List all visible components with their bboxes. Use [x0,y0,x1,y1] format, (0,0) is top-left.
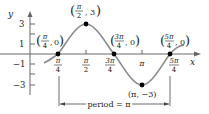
svg-text:2: 2 [77,12,81,20]
x-tick-3pi-over-4: 3π 4 [105,57,115,74]
y-tick-3: 3 [19,19,24,29]
y-axis-label: y [7,9,14,19]
svg-text:(: ( [36,33,41,48]
svg-text:π: π [76,3,82,11]
x-tick-pi: π [139,59,146,68]
svg-text:,: , [175,38,178,47]
sine-graph: y 3 1 −1 −3 x ( π 4 , 0 ) ( π 2 , 3 ) ( … [0,0,209,114]
x-tick-pi-over-4: π 4 [54,57,62,74]
label-point-min: (π, −3) [128,90,156,99]
x-tick-5pi-over-4: 5π 4 [169,57,179,74]
period-arrow-left-icon [60,102,65,106]
svg-text:,: , [85,8,88,17]
point-pi-over-4 [56,52,61,57]
svg-text:5π: 5π [164,33,173,41]
svg-text:(: ( [70,3,75,18]
svg-text:): ) [59,33,64,48]
svg-text:4: 4 [167,42,172,50]
svg-text:): ) [96,3,101,18]
svg-text:4: 4 [172,66,177,74]
svg-text:4: 4 [108,66,113,74]
svg-text:3π: 3π [114,33,123,41]
x-axis-arrow-icon [194,52,201,57]
period-arrow-right-icon [164,102,169,106]
label-point-5pi-over-4: ( 5π 4 , 0 ) [160,33,190,50]
x-axis-label: x [190,57,195,67]
label-point-pi-over-4: ( π 4 , 0 ) [36,33,64,50]
point-5pi-over-4 [168,52,173,57]
svg-text:4: 4 [43,42,48,50]
svg-text:): ) [185,33,190,48]
svg-text:π: π [55,57,61,65]
y-tick-neg1: −1 [13,59,26,69]
period-label: period = π [87,100,130,109]
svg-text:,: , [50,38,53,47]
y-axis-arrow-icon [28,11,33,17]
point-max [84,22,89,27]
label-point-3pi-over-4: ( 3π 4 , 0 ) [110,33,140,50]
svg-text:): ) [135,33,140,48]
y-tick-1: 1 [19,39,24,49]
svg-text:π: π [83,57,89,65]
svg-text:2: 2 [84,66,88,74]
point-3pi-over-4 [112,52,117,57]
svg-text:3: 3 [90,8,95,17]
svg-text:5π: 5π [169,57,178,65]
svg-text:4: 4 [117,42,122,50]
svg-text:4: 4 [56,66,61,74]
label-point-max: ( π 2 , 3 ) [70,3,101,20]
svg-text:3π: 3π [105,57,114,65]
svg-text:,: , [125,38,128,47]
y-tick-neg3: −3 [13,80,26,90]
svg-text:π: π [42,33,48,41]
x-tick-pi-over-2: π 2 [82,57,90,74]
point-min [140,83,145,88]
